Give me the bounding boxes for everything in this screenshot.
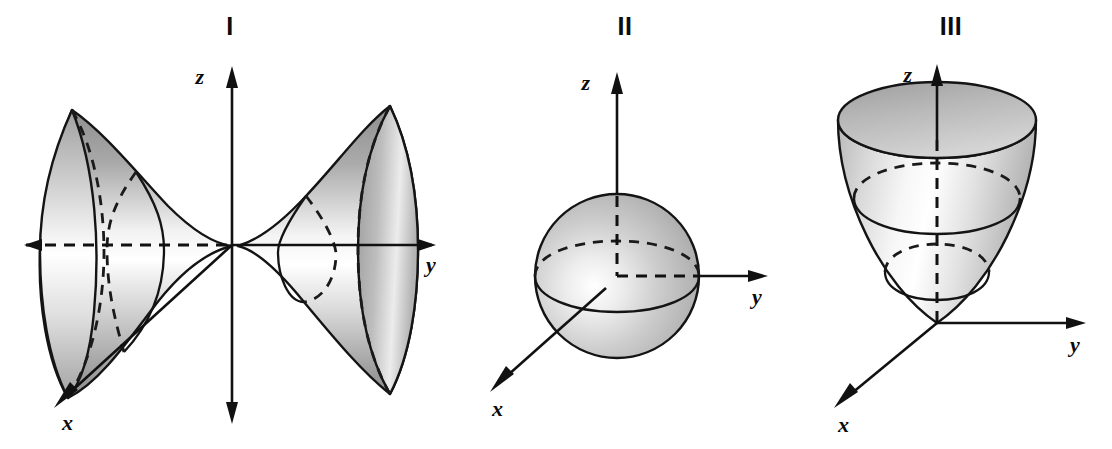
figure-panel-ii: z y x — [460, 0, 790, 449]
figure-label-iii: III — [790, 12, 1112, 41]
figure-ii-drawing: z y x — [460, 0, 790, 449]
figure-i-drawing: z y x — [0, 0, 460, 449]
figure-iii-x-label: x — [837, 412, 849, 437]
figure-iii-y-axis — [937, 317, 1086, 329]
figure-ii-y-axis — [697, 270, 768, 282]
figure-label-ii: II — [460, 12, 790, 41]
figure-iii-z-label: z — [902, 62, 912, 87]
figure-iii-drawing: z y x — [790, 0, 1112, 449]
figure-i-z-label: z — [194, 64, 204, 89]
hyperboloid-left-sheet — [40, 110, 232, 398]
figure-panel-iii: z y x — [790, 0, 1112, 449]
figure-iii-x-axis — [834, 323, 937, 408]
figure-panel-i: z y x — [0, 0, 460, 449]
figure-ii-y-label: y — [749, 284, 762, 309]
figure-i-x-label: x — [61, 410, 73, 435]
figure-label-i: I — [0, 12, 460, 41]
figure-i-y-label: y — [423, 252, 436, 277]
quadric-surfaces-figure: z y x — [0, 0, 1112, 449]
figure-ii-x-label: x — [491, 396, 503, 421]
hyperboloid-right-sheet — [238, 106, 418, 394]
figure-iii-y-label: y — [1067, 332, 1080, 357]
figure-ii-z-label: z — [580, 70, 590, 95]
